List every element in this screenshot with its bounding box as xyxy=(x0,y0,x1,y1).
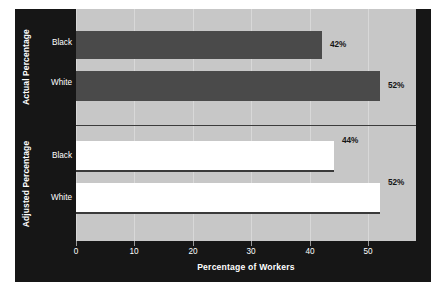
group-axis-title-adjusted-text: Adjusted Percentage xyxy=(21,140,31,226)
category-label-adjusted-black: Black xyxy=(52,151,72,160)
gridline-40 xyxy=(310,9,311,125)
group-strip-adjusted: Adjusted Percentage Black White xyxy=(15,126,76,241)
gridline-0 xyxy=(76,9,77,125)
x-tick-mark xyxy=(251,241,252,246)
gridline-20 xyxy=(193,9,194,125)
group-axis-title-adjusted: Adjusted Percentage xyxy=(15,126,37,241)
bar-value-adjusted-black: 44% xyxy=(342,136,358,145)
group-axis-title-actual: Actual Percentage xyxy=(15,9,37,125)
x-axis: 0 10 20 30 40 50 Percentage of Workers xyxy=(15,241,431,282)
bar-adjusted-white xyxy=(76,183,380,214)
x-axis-title: Percentage of Workers xyxy=(76,262,416,272)
x-tick-label-10: 10 xyxy=(129,247,138,256)
bar-value-actual-black: 42% xyxy=(330,40,346,49)
bar-value-actual-white: 52% xyxy=(388,81,404,90)
x-tick-mark xyxy=(310,241,311,246)
x-tick-label-30: 30 xyxy=(246,247,255,256)
bar-actual-black xyxy=(76,31,322,59)
gridline-50 xyxy=(368,9,369,125)
x-tick-mark xyxy=(193,241,194,246)
category-label-adjusted-white: White xyxy=(51,193,72,202)
x-tick-mark xyxy=(134,241,135,246)
gridline-30 xyxy=(251,9,252,125)
category-label-actual-black: Black xyxy=(52,38,72,47)
chart-figure: Actual Percentage Black White 42% 52% Ad… xyxy=(15,9,431,282)
x-tick-mark xyxy=(76,241,77,246)
bar-value-adjusted-white: 52% xyxy=(388,178,404,187)
group-strip-actual: Actual Percentage Black White xyxy=(15,9,76,125)
x-tick-label-0: 0 xyxy=(74,247,79,256)
bar-adjusted-black xyxy=(76,141,334,172)
x-tick-label-20: 20 xyxy=(188,247,197,256)
x-tick-label-50: 50 xyxy=(363,247,372,256)
bar-actual-white xyxy=(76,71,380,101)
gridline-10 xyxy=(134,9,135,125)
category-label-actual-white: White xyxy=(51,78,72,87)
x-tick-mark xyxy=(368,241,369,246)
plot-panel-adjusted xyxy=(76,126,416,241)
group-axis-title-actual-text: Actual Percentage xyxy=(21,29,31,105)
plot-panel-actual xyxy=(76,9,416,125)
x-tick-label-40: 40 xyxy=(305,247,314,256)
